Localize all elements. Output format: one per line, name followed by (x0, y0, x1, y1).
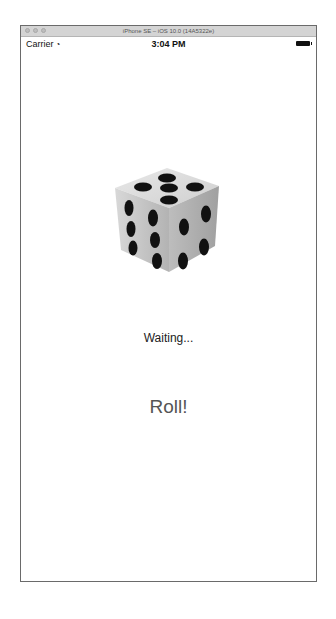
simulator-window: iPhone SE – iOS 10.0 (14A5322e) Carrier◔… (20, 25, 317, 582)
window-title: iPhone SE – iOS 10.0 (14A5322e) (21, 26, 316, 36)
simulator-title-bar[interactable]: iPhone SE – iOS 10.0 (14A5322e) (21, 26, 316, 37)
ios-status-bar: Carrier◔ 3:04 PM (21, 37, 316, 51)
roll-button[interactable]: Roll! (21, 396, 316, 418)
status-time: 3:04 PM (21, 38, 316, 50)
roll-status-label: Waiting... (21, 331, 316, 345)
dice-icon (107, 160, 227, 278)
battery-icon (296, 41, 310, 46)
